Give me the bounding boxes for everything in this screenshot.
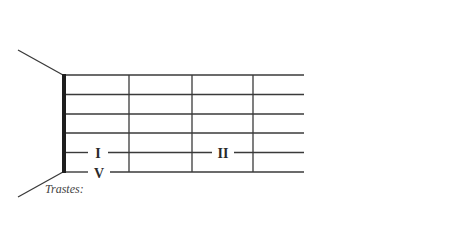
nut	[62, 74, 66, 173]
frets-caption: Trastes:	[45, 182, 84, 196]
label-fret-i: I	[95, 146, 100, 161]
label-fret-v: V	[94, 166, 104, 181]
label-fret-ii: II	[218, 146, 229, 161]
frets	[129, 75, 253, 172]
headstock-upper-line	[18, 50, 63, 75]
fretboard-diagram: I II V Trastes:	[0, 0, 461, 237]
